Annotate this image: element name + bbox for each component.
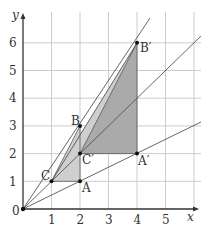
label-b: B <box>71 114 80 128</box>
y-tick-6: 6 <box>9 36 17 50</box>
label-a: A <box>81 181 91 195</box>
label-c: C <box>41 169 50 183</box>
enlargement-diagram: 0 1 2 3 4 5 x 1 2 3 4 5 6 y A B C A′ B′ … <box>0 0 201 226</box>
x-tick-3: 3 <box>105 213 113 226</box>
y-tick-4: 4 <box>9 91 17 105</box>
x-axis-label: x <box>187 210 194 224</box>
ray-through-c <box>23 36 201 209</box>
x-tick-4: 4 <box>134 213 142 226</box>
origin-label: 0 <box>12 204 20 218</box>
y-axis-label: y <box>11 8 19 22</box>
label-c-prime: C′ <box>82 153 94 167</box>
y-tick-1: 1 <box>9 175 17 189</box>
y-axis-arrow-icon <box>21 13 26 19</box>
label-b-prime: B′ <box>140 41 152 55</box>
label-a-prime: A′ <box>137 154 150 168</box>
y-tick-2: 2 <box>9 147 17 161</box>
x-tick-2: 2 <box>77 213 85 226</box>
y-tick-3: 3 <box>9 119 17 133</box>
y-tick-5: 5 <box>9 64 17 78</box>
x-axis-arrow-icon <box>193 207 199 212</box>
x-tick-1: 1 <box>48 213 56 226</box>
x-tick-5: 5 <box>162 213 170 226</box>
